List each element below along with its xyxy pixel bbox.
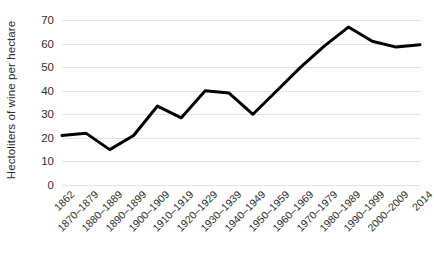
y-axis-tick-label: 60: [24, 38, 54, 50]
gridline: [62, 185, 420, 186]
y-axis-tick-labels: 010203040506070: [24, 12, 54, 188]
x-axis-tick-label: 2014: [409, 188, 434, 213]
x-axis-tick-label-text: 2014: [409, 188, 434, 213]
y-axis-tick-label: 40: [24, 85, 54, 97]
y-axis-tick-label: 30: [24, 108, 54, 120]
y-axis-title: Hectoliters of wine per hectare: [0, 0, 22, 200]
line-chart: Hectoliters of wine per hectare 01020304…: [0, 0, 434, 257]
y-axis-tick-label: 10: [24, 155, 54, 167]
data-series-line: [62, 20, 420, 185]
y-axis-title-text: Hectoliters of wine per hectare: [5, 21, 17, 179]
y-axis-tick-label: 70: [24, 14, 54, 26]
plot-area: [62, 20, 420, 185]
series-polyline: [62, 27, 420, 150]
y-axis-tick-label: 20: [24, 132, 54, 144]
y-axis-tick-label: 50: [24, 61, 54, 73]
x-axis-tick-labels: 18621870–18791880–18891890–18991900–1909…: [0, 188, 434, 257]
